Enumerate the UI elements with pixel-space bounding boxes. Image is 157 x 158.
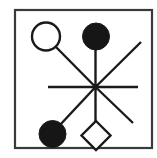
node-filled-circle-top bbox=[83, 23, 110, 50]
figure-background bbox=[0, 0, 157, 158]
figure-container bbox=[0, 0, 157, 158]
node-open-circle-upper-left bbox=[32, 23, 60, 51]
radial-node-diagram bbox=[0, 0, 157, 158]
node-filled-circle-lower-left bbox=[39, 121, 66, 148]
center-hub-dot bbox=[93, 84, 99, 90]
